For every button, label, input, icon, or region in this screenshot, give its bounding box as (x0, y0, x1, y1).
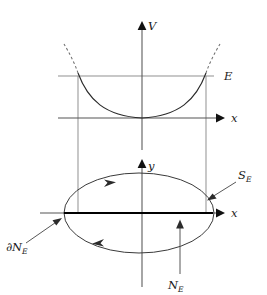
surface-annotation: SE (207, 168, 252, 201)
configuration-space-plot: y x (40, 159, 238, 287)
upper-x-axis-label: x (231, 111, 238, 125)
lower-y-axis-arrowhead (138, 159, 147, 168)
parabola-dashed-extension-right (206, 44, 220, 73)
ellipse-orientation-arrow-top (104, 180, 116, 188)
boundary-label: ∂NE (6, 240, 28, 256)
energy-level-label: E (223, 69, 233, 83)
surface-label: SE (238, 168, 252, 184)
boundary-label-subscript: E (21, 247, 28, 256)
region-label: NE (167, 278, 184, 294)
boundary-pointer-line (26, 222, 57, 244)
upper-v-axis-label: V (148, 19, 158, 33)
lower-x-axis-label: x (231, 206, 238, 220)
figure-root: V x E y x ∂ (0, 0, 267, 295)
lower-y-axis-label: y (147, 159, 155, 173)
boundary-annotation: ∂NE (6, 218, 62, 256)
surface-pointer-line (212, 182, 236, 197)
region-annotation: NE (167, 220, 184, 294)
diagram-canvas: V x E y x ∂ (0, 0, 267, 295)
boundary-label-base: ∂N (6, 240, 23, 254)
surface-label-subscript: E (245, 175, 252, 184)
upper-v-axis-arrowhead (138, 21, 147, 30)
region-pointer-arrowhead (176, 220, 184, 229)
parabola-dashed-extension-left (64, 44, 78, 73)
boundary-pointer-arrowhead (53, 218, 63, 226)
potential-energy-plot: V x E (58, 19, 238, 150)
upper-x-axis-arrowhead (216, 114, 225, 123)
lower-x-axis-arrowhead (216, 209, 225, 218)
region-label-subscript: E (177, 285, 184, 294)
surface-label-base: S (238, 168, 246, 182)
